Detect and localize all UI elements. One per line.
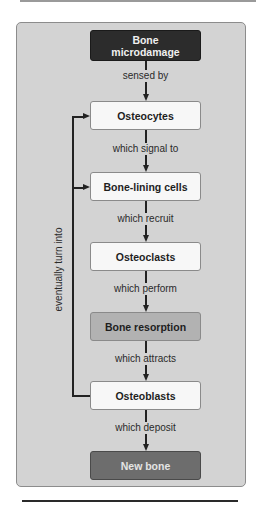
node-label: Bone-lining cells bbox=[103, 181, 187, 193]
node-bone-resorption: Bone resorption bbox=[90, 312, 201, 341]
feedback-line-vertical bbox=[72, 116, 74, 396]
node-osteocytes: Osteocytes bbox=[90, 101, 201, 130]
node-osteoclasts: Osteoclasts bbox=[90, 242, 201, 271]
bottom-rule bbox=[22, 500, 238, 502]
edge-label: sensed by bbox=[90, 70, 201, 82]
node-label: Osteoblasts bbox=[115, 390, 175, 402]
node-label: Bone resorption bbox=[105, 321, 186, 333]
arrow-down-icon bbox=[143, 165, 149, 172]
arrow-down-icon bbox=[143, 374, 149, 381]
node-bone-microdamage: Bone microdamage bbox=[90, 30, 201, 61]
node-bone-lining-cells: Bone-lining cells bbox=[90, 172, 201, 201]
arrow-down-icon bbox=[143, 94, 149, 101]
node-new-bone: New bone bbox=[90, 451, 201, 480]
edge-label: which attracts bbox=[90, 353, 201, 365]
edge-label: which signal to bbox=[90, 143, 201, 155]
node-label-line1: Bone bbox=[111, 34, 179, 46]
node-label-line2: microdamage bbox=[111, 46, 179, 58]
arrow-down-icon bbox=[143, 235, 149, 242]
node-label: Osteoclasts bbox=[116, 251, 176, 263]
arrow-right-icon bbox=[83, 113, 90, 119]
edge-label: which deposit bbox=[90, 422, 201, 434]
node-label: Osteocytes bbox=[117, 110, 174, 122]
arrow-right-icon bbox=[83, 184, 90, 190]
node-label: New bone bbox=[121, 460, 171, 472]
feedback-line-bottom bbox=[72, 395, 90, 397]
edge-label: which recruit bbox=[90, 213, 201, 225]
arrow-down-icon bbox=[143, 305, 149, 312]
feedback-label: eventually turn into bbox=[53, 220, 64, 320]
arrow-down-icon bbox=[143, 444, 149, 451]
top-rule bbox=[20, 0, 256, 2]
node-osteoblasts: Osteoblasts bbox=[90, 381, 201, 410]
edge-label: which perform bbox=[90, 283, 201, 295]
